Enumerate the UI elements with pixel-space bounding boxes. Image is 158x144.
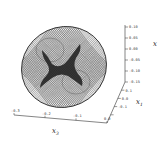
z-tick-label: -0.10	[129, 69, 140, 73]
surface-plot: 0.100.050.00-0.05-0.10-0.15 x 0.10.0-0.1…	[0, 0, 158, 144]
x-tick-label: 0.0	[104, 117, 111, 121]
z-axis-label: x	[153, 40, 157, 48]
z-tick-label: 0.05	[129, 36, 138, 40]
z-tick-label: -0.05	[129, 58, 140, 62]
y-tick-label: 0.0	[122, 97, 129, 101]
z-tick-label: 0.00	[129, 47, 138, 51]
x-tick-label: -0.1	[73, 114, 82, 118]
x-tick-label: -0.3	[11, 109, 20, 113]
z-tick-label: -0.15	[129, 80, 140, 84]
z-tick-label: 0.10	[129, 25, 138, 29]
y-axis-label: x1	[136, 98, 143, 107]
x-axis-label: x3	[52, 127, 59, 136]
x-tick-label: -0.2	[42, 112, 51, 116]
y-tick-label: 0.1	[125, 89, 131, 93]
z-axis: 0.100.050.00-0.05-0.10-0.15 x	[125, 25, 157, 84]
y-axis: 0.10.0-0.1 x1	[107, 82, 143, 123]
y-tick-label: -0.1	[118, 105, 127, 109]
x-axis: -0.3-0.2-0.10.0 x3	[11, 109, 111, 136]
